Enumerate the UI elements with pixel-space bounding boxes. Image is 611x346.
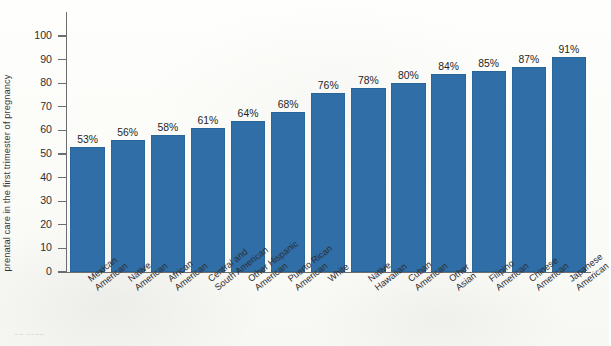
bar [191, 128, 225, 272]
bar [431, 74, 465, 272]
bar [552, 57, 586, 272]
bar-value-label: 58% [148, 122, 188, 133]
bar-value-label: 61% [188, 115, 228, 126]
bar-value-label: 84% [429, 61, 469, 72]
bar-value-label: 80% [388, 70, 428, 81]
bar-value-label: 87% [509, 54, 549, 65]
bar-value-label: 78% [348, 75, 388, 86]
bar-value-label: 85% [469, 58, 509, 69]
bar [391, 83, 425, 272]
bar-value-label: 91% [549, 44, 589, 55]
bar-value-label: 64% [228, 108, 268, 119]
bar-value-label: 53% [68, 134, 108, 145]
bar [351, 88, 385, 272]
bar-value-label: 68% [268, 99, 308, 110]
bar-value-label: 56% [108, 127, 148, 138]
bar-value-label: 76% [308, 80, 348, 91]
bar [70, 147, 104, 272]
bar [512, 67, 546, 272]
bar [472, 71, 506, 272]
